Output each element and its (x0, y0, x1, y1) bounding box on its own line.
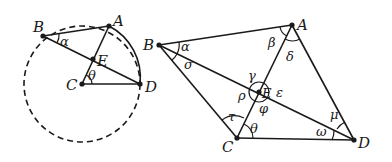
label-alpha: α (181, 39, 190, 54)
point-D (351, 137, 356, 142)
label-beta: β (267, 35, 276, 50)
angle-arc-omega (332, 130, 334, 140)
point-E (256, 89, 261, 94)
label-tau: τ (228, 109, 236, 124)
label-C: C (66, 76, 78, 94)
label-C: C (222, 138, 234, 156)
point-C (79, 81, 84, 86)
point-D (137, 81, 142, 86)
segment-BA (43, 26, 109, 36)
angle-arc-alpha (177, 42, 179, 54)
label-A: A (295, 16, 308, 34)
label-delta: δ (286, 49, 294, 64)
point-A (289, 22, 294, 27)
segment-BC (159, 45, 237, 138)
label-A: A (111, 12, 124, 30)
point-B (156, 42, 161, 47)
label-gamma: γ (248, 68, 256, 83)
point-E (90, 56, 95, 61)
angle-arc-beta (280, 27, 287, 36)
angle-arc-alpha (57, 34, 59, 43)
segment-AC (237, 25, 292, 138)
right-figure: B A E C D α σ β δ γ ε ρ φ τ θ ω μ (142, 16, 370, 156)
label-D: D (144, 78, 157, 96)
label-B: B (142, 36, 154, 54)
label-E: E (261, 86, 272, 101)
label-phi: φ (259, 101, 269, 116)
label-mu: μ (330, 107, 338, 122)
left-figure: B A E C D α θ (24, 12, 157, 142)
label-theta: θ (88, 68, 96, 83)
geometry-figure: B A E C D α θ B A E (0, 0, 392, 162)
point-A (106, 23, 111, 28)
label-omega: ω (316, 124, 327, 139)
angle-arc-mu (337, 122, 345, 129)
angle-arc-delta (285, 39, 300, 41)
label-theta: θ (250, 121, 258, 136)
point-C (234, 135, 239, 140)
label-sigma: σ (184, 57, 194, 72)
label-alpha: α (60, 34, 69, 49)
segment-CD (237, 138, 354, 140)
angle-arc-sigma (172, 54, 177, 60)
label-epsilon: ε (276, 85, 283, 100)
label-E: E (96, 52, 108, 70)
label-rho: ρ (237, 88, 246, 103)
label-B: B (32, 18, 44, 36)
label-D: D (357, 134, 370, 152)
